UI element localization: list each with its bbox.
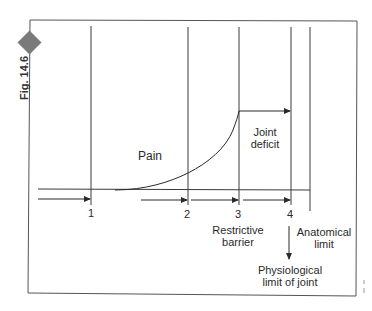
anatomical-limit-label-line2: limit xyxy=(291,238,357,250)
marker-4-label: 4 xyxy=(284,208,296,220)
physiological-limit-label-line2: limit of joint xyxy=(254,276,326,288)
figure-diamond-icon xyxy=(17,30,41,54)
figure-frame xyxy=(28,20,357,296)
restrictive-barrier-label-line2: barrier xyxy=(208,236,268,248)
physiological-limit-label-line1: Physiological xyxy=(254,264,326,276)
baseline xyxy=(38,189,310,190)
pain-label: Pain xyxy=(130,150,170,162)
figure-label: Fig. 14.6 xyxy=(17,56,31,100)
joint-deficit-label-line1: Joint xyxy=(245,126,285,138)
joint-deficit-label-line2: deficit xyxy=(245,138,285,150)
anatomical-limit-label-line1: Anatomical xyxy=(291,226,357,238)
marker-2-label: 2 xyxy=(181,208,193,220)
restrictive-barrier-label-line1: Restrictive xyxy=(208,224,268,236)
marker-3-label: 3 xyxy=(232,208,244,220)
marker-1-label: 1 xyxy=(85,207,97,219)
